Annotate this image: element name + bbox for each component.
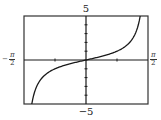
y-max-label: 5 <box>81 4 91 14</box>
tangent-plot <box>0 0 161 120</box>
x-min-denominator: 2 <box>9 60 15 67</box>
x-max-label: π 2 <box>150 52 157 67</box>
y-min-label: −5 <box>78 107 94 117</box>
x-min-sign: − <box>2 56 8 63</box>
x-min-label: − π 2 <box>2 52 15 67</box>
x-max-denominator: 2 <box>150 60 156 67</box>
